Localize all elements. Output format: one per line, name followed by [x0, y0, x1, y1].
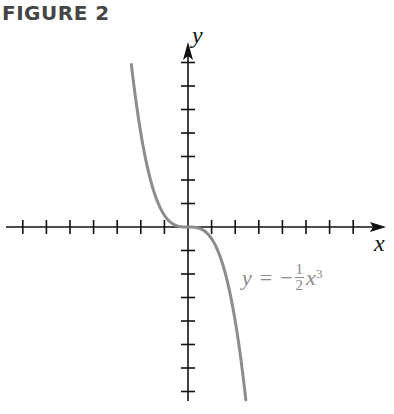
equation-label: y = − 1 2 x 3 — [242, 262, 322, 293]
equation-variable: x — [306, 265, 316, 291]
equation-fraction: 1 2 — [295, 262, 305, 293]
x-axis-label: x — [374, 230, 385, 257]
equation-sign: − — [280, 265, 292, 291]
equation-lhs: y — [242, 265, 252, 291]
y-axis-label: y — [192, 22, 203, 49]
fraction-numerator: 1 — [295, 262, 305, 278]
equation-exponent: 3 — [316, 266, 323, 282]
fraction-denominator: 2 — [296, 278, 304, 293]
equation-equals: = — [260, 265, 272, 291]
cubic-plot — [0, 0, 394, 414]
y-axis — [181, 42, 195, 401]
